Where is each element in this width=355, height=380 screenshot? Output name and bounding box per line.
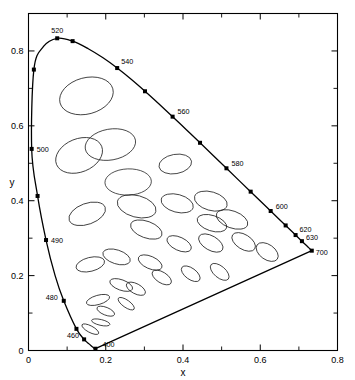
wavelength-marker [300, 239, 304, 243]
macadam-ellipse [101, 246, 132, 268]
wavelength-marker [171, 115, 175, 119]
macadam-ellipse [157, 152, 193, 177]
macadam-ellipse [50, 131, 108, 180]
macadam-ellipse [192, 188, 230, 215]
macadam-ellipse [104, 168, 151, 196]
macadam-ellipse [207, 260, 232, 283]
macadam-ellipse [83, 125, 139, 164]
macadam-ellipse [115, 191, 159, 222]
wavelength-marker [62, 299, 66, 303]
wavelength-marker [249, 190, 253, 194]
wavelength-marker [93, 347, 97, 351]
wavelength-label: 500 [37, 145, 49, 154]
wavelength-label: 520 [51, 26, 63, 35]
plot-frame [29, 14, 338, 351]
x-axis-title: x [181, 367, 186, 378]
wavelength-label: 630 [306, 233, 318, 242]
wavelength-marker [30, 147, 34, 151]
macadam-ellipse [74, 254, 106, 275]
macadam-ellipse [195, 211, 229, 235]
wavelength-marker [44, 238, 48, 242]
wavelength-marker [74, 327, 78, 331]
macadam-ellipse [55, 71, 117, 120]
y-tick-label: 0.4 [11, 196, 24, 206]
wavelength-marker [310, 249, 314, 253]
macadam-ellipse [85, 292, 111, 308]
y-axis-title: y [10, 177, 15, 188]
macadam-ellipse [253, 239, 282, 266]
macadam-ellipse [128, 216, 165, 243]
macadam-ellipse [116, 295, 136, 312]
y-tick-label: 0 [18, 346, 23, 356]
wavelength-label: 480 [46, 293, 58, 302]
y-tick-label: 0.2 [11, 271, 24, 281]
y-tick-label: 0.8 [11, 46, 24, 56]
macadam-ellipse [164, 232, 193, 255]
macadam-ellipse [196, 230, 226, 256]
wavelength-marker [284, 223, 288, 227]
x-tick-label: 0.6 [254, 355, 267, 365]
wavelength-marker [32, 68, 36, 72]
wavelength-label: 460 [67, 331, 79, 340]
x-tick-label: 0.2 [99, 355, 112, 365]
macadam-ellipse [159, 190, 195, 216]
axis-ticks [29, 14, 338, 351]
wavelength-label: 560 [178, 107, 190, 116]
macadam-ellipse [179, 263, 203, 285]
wavelength-marker [115, 66, 119, 70]
wavelength-label: 700 [316, 248, 328, 257]
wavelength-marker [71, 39, 75, 43]
macadam-ellipse [96, 304, 116, 318]
wavelength-labels: 400460480490500520540560580600620630700 [37, 26, 328, 348]
wavelength-label: 540 [121, 57, 133, 66]
wavelength-label: 580 [232, 159, 244, 168]
macadam-ellipse [214, 206, 251, 233]
wavelength-label: 600 [276, 202, 288, 211]
wavelength-label: 490 [51, 236, 63, 245]
macadam-ellipse [91, 317, 111, 327]
macadam-ellipse [136, 252, 164, 274]
chromaticity-diagram-figure: 00.20.40.60.800.20.40.60.8 4004604804905… [0, 0, 355, 380]
wavelength-marker [269, 209, 273, 213]
wavelength-label: 400 [102, 340, 114, 349]
x-tick-label: 0 [26, 355, 31, 365]
wavelength-marker [143, 89, 147, 93]
wavelength-marker [55, 36, 59, 40]
x-tick-label: 0.4 [177, 355, 190, 365]
macadam-ellipse [229, 229, 259, 255]
wavelength-marker [294, 233, 298, 237]
wavelength-marker [36, 194, 40, 198]
wavelength-marker [198, 141, 202, 145]
chart-canvas: 00.20.40.60.800.20.40.60.8 4004604804905… [0, 0, 355, 380]
wavelength-marker [224, 166, 228, 170]
x-tick-label: 0.8 [331, 355, 344, 365]
macadam-ellipse [66, 197, 109, 230]
wavelength-marker [82, 337, 86, 341]
y-tick-label: 0.6 [11, 121, 24, 131]
